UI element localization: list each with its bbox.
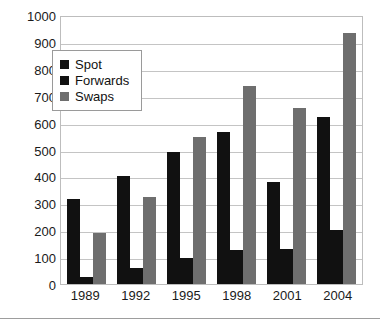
- bar-group-2001: [262, 17, 312, 284]
- x-axis-tick-label-2001: 2001: [262, 288, 313, 303]
- bar-chart: 01002003004005006007008009001000 1989199…: [0, 0, 380, 328]
- bar-group-1995: [161, 17, 211, 284]
- legend-swatch-icon: [60, 92, 69, 101]
- x-axis-tick-label-1992: 1992: [111, 288, 162, 303]
- y-axis-tick-label: 0: [4, 278, 56, 293]
- bar-forwards-2004: [330, 230, 343, 284]
- bar-swaps-2004: [343, 33, 356, 285]
- bar-forwards-1989: [80, 277, 93, 284]
- y-axis-tick-label: 400: [4, 170, 56, 185]
- bar-spot-1998: [217, 132, 230, 284]
- legend-swatch-icon: [60, 76, 69, 85]
- y-axis-tick-label: 900: [4, 35, 56, 50]
- x-axis-tick-label-1995: 1995: [161, 288, 212, 303]
- bar-swaps-1989: [93, 233, 106, 284]
- legend-item-swaps: Swaps: [60, 88, 129, 104]
- bar-swaps-1995: [193, 137, 206, 284]
- y-axis-tick-label: 700: [4, 89, 56, 104]
- bar-spot-1989: [67, 199, 80, 284]
- legend-swatch-icon: [60, 60, 69, 69]
- legend-label: Swaps: [75, 90, 114, 103]
- bar-swaps-1992: [143, 197, 156, 284]
- bar-spot-2004: [317, 117, 330, 284]
- y-axis-tick-label: 1000: [4, 9, 56, 24]
- legend: SpotForwardsSwaps: [52, 50, 142, 111]
- x-axis-tick-label-1998: 1998: [212, 288, 263, 303]
- bar-group-1998: [212, 17, 262, 284]
- y-axis-tick-label: 500: [4, 143, 56, 158]
- bar-spot-1995: [167, 152, 180, 284]
- legend-item-forwards: Forwards: [60, 72, 129, 88]
- bar-forwards-1998: [230, 250, 243, 284]
- bar-forwards-2001: [280, 249, 293, 284]
- bar-spot-2001: [267, 182, 280, 284]
- bottom-divider: [0, 318, 380, 319]
- y-axis: 01002003004005006007008009001000: [0, 16, 56, 285]
- x-axis-tick-label-1989: 1989: [60, 288, 111, 303]
- y-axis-tick-label: 800: [4, 62, 56, 77]
- y-axis-tick-label: 600: [4, 116, 56, 131]
- bar-swaps-1998: [243, 86, 256, 284]
- y-axis-tick-label: 200: [4, 224, 56, 239]
- x-axis: 198919921995199820012004: [60, 288, 363, 303]
- bar-group-2004: [312, 17, 362, 284]
- y-axis-tick-label: 300: [4, 197, 56, 212]
- bar-spot-1992: [117, 176, 130, 284]
- bar-swaps-2001: [293, 108, 306, 284]
- bar-forwards-1992: [130, 268, 143, 284]
- legend-label: Spot: [75, 58, 102, 71]
- y-axis-tick-label: 100: [4, 251, 56, 266]
- x-axis-tick-label-2004: 2004: [313, 288, 364, 303]
- legend-label: Forwards: [75, 74, 129, 87]
- bar-forwards-1995: [180, 258, 193, 284]
- legend-item-spot: Spot: [60, 56, 129, 72]
